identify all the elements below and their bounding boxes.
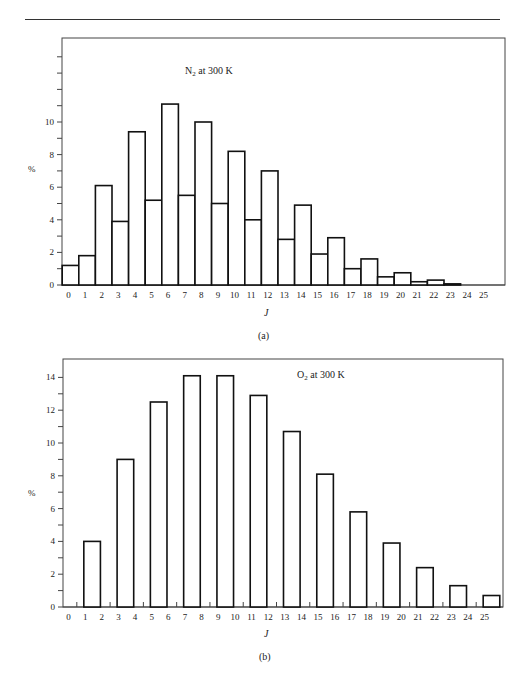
chart-title: O2 at 300 K xyxy=(297,369,345,382)
x-tick-label: 3 xyxy=(116,612,121,622)
bar xyxy=(295,205,312,285)
x-tick-label: 13 xyxy=(280,612,290,622)
bar xyxy=(383,543,400,607)
bar xyxy=(150,402,167,607)
x-tick-label: 11 xyxy=(247,290,256,300)
bar xyxy=(284,432,301,607)
x-tick-label: 17 xyxy=(346,290,356,300)
x-tick-label: 22 xyxy=(430,612,439,622)
bar xyxy=(450,586,467,607)
x-tick-label: 5 xyxy=(149,612,154,622)
bar xyxy=(361,259,378,285)
bar xyxy=(444,284,461,285)
y-tick-label: 8 xyxy=(51,471,56,481)
x-tick-label: 19 xyxy=(380,612,390,622)
x-tick-label: 6 xyxy=(166,290,171,300)
x-tick-label: 21 xyxy=(413,612,422,622)
x-tick-label: 15 xyxy=(314,612,324,622)
x-tick-label: 9 xyxy=(216,612,221,622)
x-tick-label: 17 xyxy=(347,612,357,622)
bar xyxy=(162,104,179,285)
y-tick-label: 12 xyxy=(46,405,55,415)
x-axis: 0123456789101112131415161718192021222324… xyxy=(62,285,505,300)
y-axis-label: % xyxy=(28,488,36,498)
x-tick-label: 21 xyxy=(413,290,422,300)
bar xyxy=(112,221,129,285)
x-tick-label: 4 xyxy=(133,612,138,622)
bar xyxy=(95,186,112,285)
bar xyxy=(117,459,134,607)
x-tick-label: 11 xyxy=(247,612,256,622)
figure-caption: (b) xyxy=(259,651,271,663)
x-tick-label: 20 xyxy=(397,612,407,622)
bar xyxy=(178,195,195,285)
x-tick-label: 1 xyxy=(83,290,88,300)
y-tick-label: 6 xyxy=(51,504,56,514)
x-axis-label: J xyxy=(264,628,269,639)
bar xyxy=(184,376,201,607)
bar xyxy=(328,238,345,285)
bar xyxy=(344,269,361,285)
x-tick-label: 16 xyxy=(330,290,340,300)
x-tick-label: 14 xyxy=(296,290,306,300)
x-tick-label: 8 xyxy=(199,612,204,622)
bar xyxy=(228,151,245,285)
y-tick-label: 0 xyxy=(51,602,56,612)
x-tick-label: 25 xyxy=(480,612,490,622)
bar xyxy=(195,122,212,285)
bar xyxy=(411,282,428,285)
x-tick-label: 8 xyxy=(199,290,204,300)
x-tick-label: 23 xyxy=(447,612,457,622)
y-tick-label: 8 xyxy=(50,150,55,160)
bar xyxy=(212,204,229,286)
x-tick-label: 3 xyxy=(116,290,121,300)
x-tick-label: 25 xyxy=(479,290,489,300)
x-tick-label: 2 xyxy=(99,290,104,300)
x-tick-label: 12 xyxy=(263,290,272,300)
bar xyxy=(261,171,278,285)
x-tick-label: 22 xyxy=(429,290,438,300)
y-axis: 02468101214 xyxy=(46,372,63,612)
x-tick-label: 12 xyxy=(264,612,273,622)
bar xyxy=(417,568,434,607)
x-tick-label: 20 xyxy=(396,290,406,300)
bar xyxy=(311,254,328,285)
bar xyxy=(483,596,500,607)
x-tick-label: 4 xyxy=(133,290,138,300)
figure-caption: (a) xyxy=(258,330,269,342)
chart-title: N2 at 300 K xyxy=(185,65,233,78)
x-tick-label: 24 xyxy=(462,290,472,300)
x-tick-label: 19 xyxy=(379,290,389,300)
x-tick-label: 10 xyxy=(230,290,240,300)
x-tick-label: 23 xyxy=(446,290,456,300)
bar xyxy=(250,395,267,607)
y-axis-label: % xyxy=(28,164,36,174)
x-tick-label: 24 xyxy=(463,612,473,622)
bar xyxy=(84,541,101,607)
y-tick-label: 4 xyxy=(50,215,55,225)
y-tick-label: 4 xyxy=(51,536,56,546)
y-tick-label: 0 xyxy=(50,280,55,290)
bar xyxy=(278,239,295,285)
y-tick-label: 10 xyxy=(45,117,55,127)
x-tick-label: 6 xyxy=(166,612,171,622)
chart-n2: 0246810 01234567891011121314151617181920… xyxy=(28,38,505,342)
bar xyxy=(350,512,367,607)
x-tick-label: 15 xyxy=(313,290,323,300)
x-tick-label: 7 xyxy=(182,290,187,300)
x-tick-label: 2 xyxy=(100,612,105,622)
x-tick-label: 16 xyxy=(330,612,340,622)
x-axis-label: J xyxy=(264,307,269,318)
bar xyxy=(378,277,395,285)
y-axis: 0246810 xyxy=(45,57,62,290)
figure: 0246810 01234567891011121314151617181920… xyxy=(0,0,530,682)
x-tick-label: 9 xyxy=(216,290,221,300)
x-tick-label: 18 xyxy=(364,612,374,622)
x-tick-label: 0 xyxy=(66,612,71,622)
bar xyxy=(317,474,334,607)
bar xyxy=(79,256,96,285)
bar xyxy=(62,265,79,285)
bars xyxy=(84,376,500,607)
y-tick-label: 2 xyxy=(50,247,55,257)
chart-o2: 02468101214 0123456789101112131415161718… xyxy=(28,359,503,663)
